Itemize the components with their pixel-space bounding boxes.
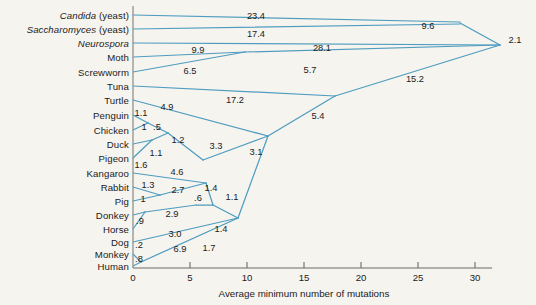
branch-length-label: 6.5 [184, 66, 197, 76]
taxon-label: Moth [107, 52, 129, 63]
branch-length-label: 3.3 [210, 141, 223, 151]
tree-branch [133, 24, 460, 29]
tree-branch [133, 15, 460, 22]
branch-length-label: 1.2 [172, 135, 185, 145]
tree-branch [335, 45, 500, 96]
branch-length-label: 1.4 [205, 183, 218, 193]
branch-length-label: 2.9 [166, 209, 179, 219]
taxon-common-name: (yeast) [96, 10, 129, 21]
taxon-label: Screwworm [78, 67, 129, 78]
taxon-label: Turtle [104, 95, 129, 106]
branch-length-label: .6 [194, 193, 202, 203]
axis-tick-label: 10 [242, 272, 253, 283]
branch-length-label: 1.1 [135, 108, 148, 118]
branch-length-label: 5.4 [312, 111, 325, 121]
branch-length-label: 1.1 [226, 192, 239, 202]
taxon-label: Human [98, 261, 129, 272]
taxon-common-name: (yeast) [96, 24, 129, 35]
taxon-label: Saccharomyces (yeast) [27, 24, 129, 35]
branch-length-label: 2.1 [509, 35, 522, 45]
branch-length-label: 1.4 [215, 224, 228, 234]
tree-branch [133, 195, 160, 201]
branch-length-label: 1 [140, 194, 145, 204]
tree-branch [460, 23, 500, 45]
branch-length-label: 9.9 [192, 45, 205, 55]
branch-length-label: 4.9 [161, 102, 174, 112]
branch-length-label: 15.2 [406, 74, 424, 84]
taxon-label: Dog [111, 237, 129, 248]
phylogenetic-tree-figure: Candida (yeast)Saccharomyces (yeast)Neur… [0, 0, 536, 305]
branch-length-label: 1.6 [135, 160, 148, 170]
branch-length-label: 17.2 [226, 95, 244, 105]
axis-tick-label: 15 [299, 272, 310, 283]
taxon-label: Monkey [95, 249, 129, 260]
taxon-genus: Saccharomyces [27, 24, 97, 35]
branch-length-label: 6.9 [174, 244, 187, 254]
axis-tick-label: 0 [130, 272, 135, 283]
taxon-label: Duck [107, 139, 129, 150]
branch-length-label: 17.4 [247, 29, 265, 39]
taxon-genus: Candida [60, 10, 96, 21]
branch-length-label: 1.1 [150, 148, 163, 158]
branch-length-label: 5.7 [304, 65, 317, 75]
tree-branch [152, 133, 168, 140]
axis-title: Average minimum number of mutations [219, 288, 390, 299]
taxon-label: Tuna [107, 81, 129, 92]
branch-length-label: 28.1 [313, 43, 331, 53]
axis-tick-label: 5 [187, 272, 192, 283]
branch-length-label: .8 [135, 254, 143, 264]
tree-branch [268, 96, 335, 136]
tree-branch [213, 205, 238, 218]
taxon-label: Candida (yeast) [60, 10, 129, 21]
axis-tick-label: 30 [470, 272, 481, 283]
taxon-label: Pigeon [99, 153, 129, 164]
taxon-genus: Neurospora [78, 38, 129, 49]
taxon-label: Horse [103, 224, 129, 235]
branch-length-label: .5 [153, 122, 161, 132]
taxon-label: Pig [115, 196, 129, 207]
branch-length-label: 4.6 [171, 167, 184, 177]
branch-length-label: 1 [141, 122, 146, 132]
branch-length-label: .2 [135, 240, 143, 250]
axis-tick-label: 20 [356, 272, 367, 283]
taxon-label: Rabbit [101, 182, 129, 193]
branch-length-label: 23.4 [247, 11, 265, 21]
taxon-label: Donkey [96, 210, 129, 221]
branch-length-label: .9 [136, 216, 144, 226]
branch-length-label: 3.1 [250, 147, 263, 157]
branch-length-label: 2.7 [172, 185, 185, 195]
tree-branch [245, 45, 500, 52]
taxon-label: Penguin [93, 110, 129, 121]
taxon-label: Kangaroo [87, 168, 129, 179]
taxon-label: Chicken [94, 125, 129, 136]
branch-length-label: 1.7 [203, 243, 216, 253]
branch-length-label: 9.6 [422, 21, 435, 31]
branch-length-label: 3.0 [169, 229, 182, 239]
taxon-label: Neurospora [78, 38, 129, 49]
branch-length-label: 1.3 [142, 180, 155, 190]
axis-tick-label: 25 [413, 272, 424, 283]
